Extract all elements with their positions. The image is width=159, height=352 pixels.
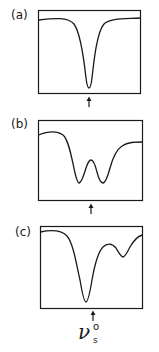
- nu-superscript: o: [93, 322, 99, 332]
- nu-subscript: s: [93, 336, 98, 345]
- panel-a-label: (a): [11, 9, 28, 21]
- panel-a-spectrum-curve: [39, 18, 141, 88]
- panel-b-label: (b): [11, 118, 28, 130]
- panel-b-plot: [39, 121, 143, 215]
- panel-a-up-arrow-icon: [87, 97, 92, 108]
- panel-a-plot: [39, 11, 141, 108]
- spectra-drawing: [0, 0, 159, 352]
- panel-c-frame: [41, 227, 143, 309]
- panel-c-up-arrow-icon: [91, 311, 96, 322]
- nu-symbol: ν: [78, 322, 90, 342]
- panel-b-spectrum-curve: [39, 132, 143, 183]
- panel-a-frame: [39, 11, 141, 94]
- spectra-figure: (a) (b) (c) ν s o: [0, 0, 159, 352]
- panel-c-plot: [41, 227, 143, 322]
- panel-b-up-arrow-icon: [89, 204, 94, 215]
- panel-c-spectrum-curve: [41, 231, 143, 302]
- panel-c-label: (c): [15, 226, 31, 238]
